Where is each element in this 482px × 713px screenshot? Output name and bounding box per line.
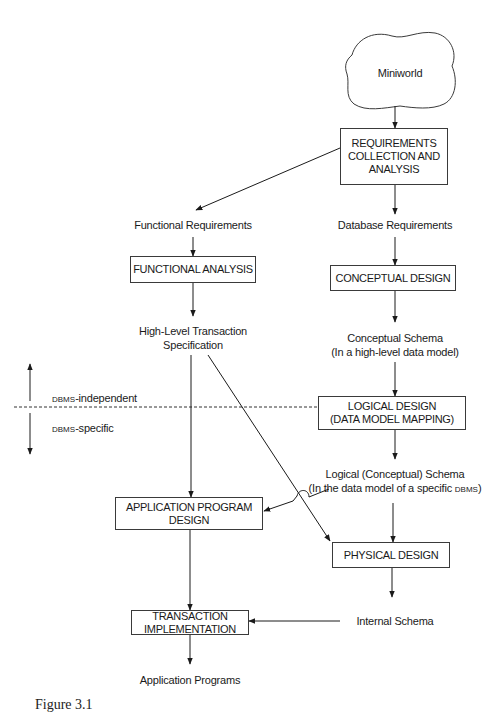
miniworld-label: Miniworld — [360, 66, 440, 80]
label-line: Conceptual Schema — [315, 331, 475, 345]
figure-caption-fragment: Figure 3.1 — [35, 697, 93, 713]
box-line: LOGICAL DESIGN — [348, 400, 436, 413]
application-program-design-box: APPLICATION PROGRAM DESIGN — [115, 497, 263, 530]
label-line: Logical (Conceptual) Schema — [300, 467, 482, 481]
box-line: REQUIREMENTS — [351, 137, 436, 150]
arrow-requirements-to-functional-requirements — [196, 148, 340, 210]
independent-text: -independent — [75, 392, 137, 404]
label-line: (In the data model of a specific DBMS) — [300, 481, 482, 497]
box-line: DESIGN — [169, 514, 209, 527]
database-requirements-label: Database Requirements — [325, 218, 465, 232]
dbms-smallcaps: DBMS — [455, 485, 478, 494]
label-text: ) — [478, 482, 481, 494]
box-line: APPLICATION PROGRAM — [126, 501, 252, 514]
box-line: COLLECTION AND — [348, 150, 440, 163]
box-line: CONCEPTUAL DESIGN — [336, 272, 451, 285]
box-line: TRANSACTION — [152, 610, 228, 623]
box-line: IMPLEMENTATION — [144, 623, 236, 636]
label-line: Specification — [118, 338, 268, 352]
logical-design-box: LOGICAL DESIGN (DATA MODEL MAPPING) — [318, 396, 466, 430]
label-line: High-Level Transaction — [118, 324, 268, 338]
dbms-specific-label: DBMS-specific — [52, 421, 114, 437]
functional-requirements-label: Functional Requirements — [123, 218, 263, 232]
internal-schema-label: Internal Schema — [340, 614, 450, 628]
box-line: ANALYSIS — [369, 163, 420, 176]
high-level-transaction-specification-label: High-Level Transaction Specification — [118, 324, 268, 352]
box-line: FUNCTIONAL ANALYSIS — [133, 263, 253, 276]
label-line: (In a high-level data model) — [315, 345, 475, 359]
specific-text: -specific — [75, 422, 114, 434]
dbms-smallcaps: DBMS — [52, 425, 75, 434]
dbms-independent-label: DBMS-independent — [52, 391, 137, 407]
transaction-implementation-box: TRANSACTION IMPLEMENTATION — [131, 610, 249, 635]
box-line: (DATA MODEL MAPPING) — [330, 413, 454, 426]
label-text: (In the data model of a specific — [309, 482, 455, 494]
requirements-collection-analysis-box: REQUIREMENTS COLLECTION AND ANALYSIS — [340, 128, 448, 185]
conceptual-design-box: CONCEPTUAL DESIGN — [330, 265, 456, 291]
logical-conceptual-schema-label: Logical (Conceptual) Schema (In the data… — [300, 467, 482, 497]
dbms-smallcaps: DBMS — [52, 395, 75, 404]
conceptual-schema-label: Conceptual Schema (In a high-level data … — [315, 331, 475, 359]
application-programs-label: Application Programs — [120, 673, 260, 687]
functional-analysis-box: FUNCTIONAL ANALYSIS — [130, 256, 256, 283]
physical-design-box: PHYSICAL DESIGN — [332, 542, 450, 568]
box-line: PHYSICAL DESIGN — [344, 549, 439, 562]
